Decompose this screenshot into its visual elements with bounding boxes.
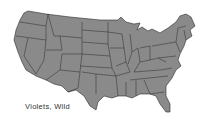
us-outline xyxy=(14,11,195,112)
map-figure: Violets, Wild xyxy=(0,0,210,127)
map-caption: Violets, Wild xyxy=(25,102,70,111)
